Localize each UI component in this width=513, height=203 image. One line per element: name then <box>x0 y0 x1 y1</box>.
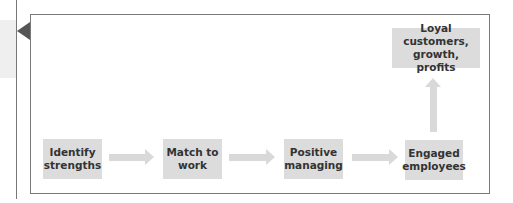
arrow-right-icon <box>352 154 390 161</box>
node-identify-strengths: Identify strengths <box>43 139 102 179</box>
node-label-line2: managing <box>284 159 343 172</box>
node-label-line1: Identify <box>44 146 101 159</box>
arrow-right-icon <box>109 154 146 161</box>
node-label-line2: employees <box>402 160 466 173</box>
node-label-line1: Match to <box>166 146 218 159</box>
pointer-triangle-icon <box>17 22 30 40</box>
node-label-line2: strengths <box>44 159 101 172</box>
node-label-line1: Loyal customers, <box>392 22 480 48</box>
arrow-up-icon <box>430 87 437 132</box>
node-label-line2: growth, profits <box>392 48 480 74</box>
node-match-to-work: Match to work <box>163 139 222 179</box>
side-tab <box>0 20 16 78</box>
node-loyal-customers-growth-profits: Loyal customers, growth, profits <box>392 28 480 68</box>
node-positive-managing: Positive managing <box>284 139 343 179</box>
node-engaged-employees: Engaged employees <box>405 140 463 180</box>
arrow-right-icon <box>229 154 267 161</box>
node-label-line2: work <box>166 159 218 172</box>
node-label-line1: Engaged <box>402 147 466 160</box>
node-label-line1: Positive <box>284 146 343 159</box>
